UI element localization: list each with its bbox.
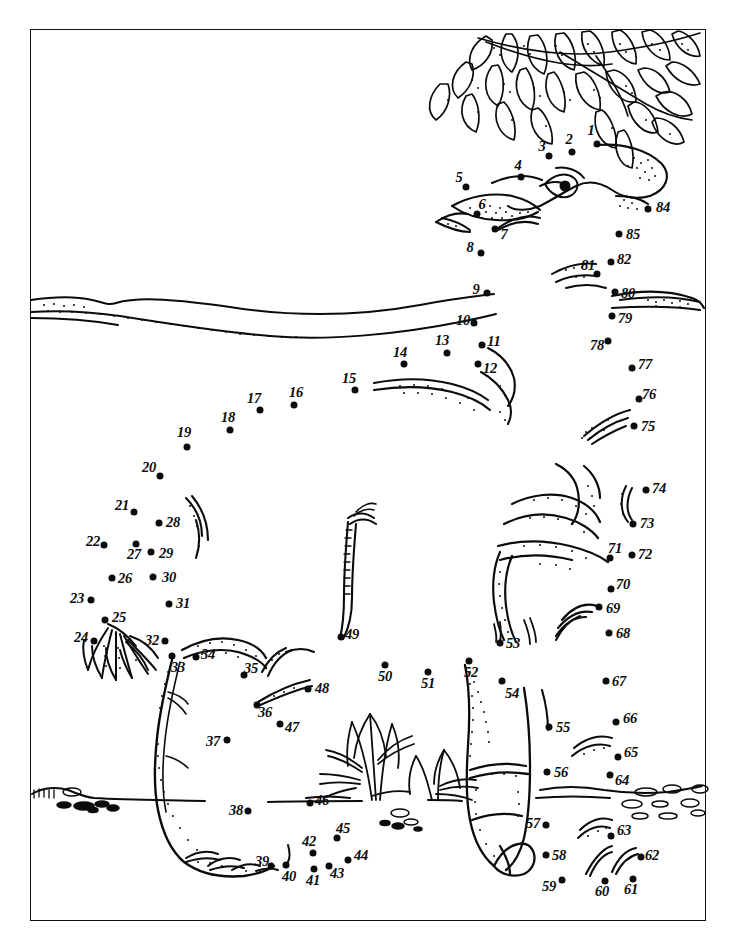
puzzle-dot-64[interactable]	[607, 772, 614, 779]
puzzle-dot-48[interactable]	[305, 686, 312, 693]
puzzle-dot-3[interactable]	[546, 153, 553, 160]
puzzle-dot-62[interactable]	[638, 854, 645, 861]
puzzle-dot-79[interactable]	[609, 313, 616, 320]
puzzle-dot-23[interactable]	[88, 597, 95, 604]
puzzle-dot-38[interactable]	[245, 808, 252, 815]
puzzle-dot-44[interactable]	[345, 857, 352, 864]
chest-stipple	[399, 384, 507, 421]
puzzle-dot-82[interactable]	[608, 259, 615, 266]
puzzle-dot-9[interactable]	[484, 290, 491, 297]
puzzle-dot-54[interactable]	[499, 678, 506, 685]
puzzle-dot-75[interactable]	[631, 423, 638, 430]
puzzle-dot-19[interactable]	[184, 444, 191, 451]
puzzle-dot-74[interactable]	[643, 487, 650, 494]
puzzle-dot-21[interactable]	[131, 509, 138, 516]
puzzle-dot-59[interactable]	[559, 877, 566, 884]
puzzle-dot-85[interactable]	[616, 231, 623, 238]
puzzle-dot-label-5: 5	[455, 169, 462, 186]
puzzle-dot-55[interactable]	[546, 724, 553, 731]
horizon-hill-line	[31, 294, 496, 338]
puzzle-dot-20[interactable]	[157, 473, 164, 480]
puzzle-page: 1234567891011121314151617181920212223242…	[0, 0, 734, 951]
puzzle-dot-label-78: 78	[590, 337, 604, 354]
grass-tuft-icon	[320, 714, 478, 800]
puzzle-dot-47[interactable]	[277, 721, 284, 728]
puzzle-dot-label-40: 40	[282, 868, 296, 885]
puzzle-dot-29[interactable]	[148, 549, 155, 556]
puzzle-dot-label-8: 8	[466, 239, 473, 256]
puzzle-dot-28[interactable]	[156, 520, 163, 527]
puzzle-dot-57[interactable]	[543, 822, 550, 829]
puzzle-dot-label-7: 7	[500, 226, 507, 243]
puzzle-dot-49[interactable]	[338, 634, 345, 641]
puzzle-dot-56[interactable]	[544, 769, 551, 776]
puzzle-dot-31[interactable]	[166, 601, 173, 608]
puzzle-dot-5[interactable]	[463, 184, 470, 191]
puzzle-dot-46[interactable]	[307, 800, 314, 807]
puzzle-dot-37[interactable]	[224, 737, 231, 744]
puzzle-dot-22[interactable]	[101, 542, 108, 549]
puzzle-dot-70[interactable]	[608, 586, 615, 593]
puzzle-dot-label-72: 72	[638, 546, 652, 563]
shoulder-curve	[584, 410, 630, 444]
puzzle-dot-label-16: 16	[289, 384, 303, 401]
puzzle-dot-label-60: 60	[595, 883, 609, 900]
puzzle-dot-label-80: 80	[621, 285, 635, 302]
puzzle-dot-label-55: 55	[556, 719, 570, 736]
puzzle-dot-2[interactable]	[569, 149, 576, 156]
puzzle-dot-label-81: 81	[581, 257, 595, 274]
puzzle-dot-80[interactable]	[612, 289, 619, 296]
puzzle-dot-18[interactable]	[227, 427, 234, 434]
puzzle-dot-label-9: 9	[472, 281, 479, 298]
puzzle-dot-label-82: 82	[617, 251, 631, 268]
puzzle-dot-10[interactable]	[471, 320, 478, 327]
puzzle-dot-label-58: 58	[552, 847, 566, 864]
puzzle-dot-78[interactable]	[605, 338, 612, 345]
puzzle-dot-66[interactable]	[613, 719, 620, 726]
puzzle-dot-14[interactable]	[401, 361, 408, 368]
hind-body-lines	[498, 464, 608, 562]
puzzle-dot-24[interactable]	[91, 638, 98, 645]
puzzle-dot-65[interactable]	[615, 754, 622, 761]
puzzle-dot-7[interactable]	[492, 226, 499, 233]
puzzle-dot-42[interactable]	[310, 850, 317, 857]
puzzle-dot-25[interactable]	[102, 617, 109, 624]
puzzle-dot-73[interactable]	[630, 521, 637, 528]
puzzle-dot-67[interactable]	[603, 678, 610, 685]
puzzle-dot-label-4: 4	[514, 157, 521, 174]
puzzle-dot-1[interactable]	[594, 141, 601, 148]
puzzle-dot-label-74: 74	[652, 480, 666, 497]
puzzle-dot-17[interactable]	[257, 407, 264, 414]
puzzle-dot-label-52: 52	[464, 664, 478, 681]
puzzle-dot-63[interactable]	[608, 833, 615, 840]
puzzle-dot-4[interactable]	[518, 174, 525, 181]
puzzle-dot-15[interactable]	[352, 387, 359, 394]
puzzle-dot-label-77: 77	[638, 356, 652, 373]
puzzle-dot-16[interactable]	[291, 402, 298, 409]
tick-mark-42	[288, 845, 290, 862]
puzzle-dot-69[interactable]	[596, 604, 603, 611]
puzzle-dot-34[interactable]	[193, 654, 200, 661]
puzzle-dot-label-69: 69	[606, 600, 620, 617]
puzzle-dot-11[interactable]	[479, 342, 486, 349]
puzzle-dot-label-71: 71	[608, 540, 622, 557]
puzzle-dot-label-3: 3	[538, 138, 545, 155]
puzzle-dot-30[interactable]	[150, 574, 157, 581]
puzzle-dot-label-37: 37	[206, 733, 220, 750]
puzzle-dot-84[interactable]	[645, 206, 652, 213]
puzzle-dot-32[interactable]	[162, 638, 169, 645]
puzzle-dot-label-56: 56	[554, 764, 568, 781]
puzzle-dot-13[interactable]	[444, 350, 451, 357]
puzzle-dot-77[interactable]	[629, 365, 636, 372]
puzzle-dot-58[interactable]	[543, 852, 550, 859]
puzzle-dot-53[interactable]	[497, 640, 504, 647]
puzzle-dot-26[interactable]	[109, 575, 116, 582]
puzzle-dot-label-38: 38	[229, 802, 243, 819]
puzzle-dot-8[interactable]	[478, 250, 485, 257]
puzzle-dot-68[interactable]	[606, 630, 613, 637]
puzzle-dot-label-49: 49	[345, 626, 359, 643]
ear-lines	[436, 194, 540, 232]
puzzle-dot-label-32: 32	[145, 632, 159, 649]
puzzle-dot-12[interactable]	[475, 361, 482, 368]
puzzle-dot-72[interactable]	[629, 552, 636, 559]
